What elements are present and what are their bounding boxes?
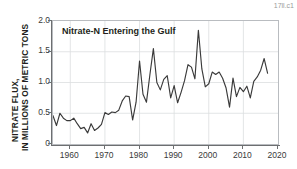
chart-title: Nitrate-N Entering the Gulf (62, 26, 176, 36)
data-series-line (53, 30, 268, 133)
y-tick-mark (48, 82, 52, 83)
figure-id-label: 17ll.c1 (274, 2, 294, 9)
data-line-chart (53, 21, 278, 144)
y-tick-label-2.0: 2.0 (30, 16, 50, 25)
y-axis-title-line-1: NITRATE FLUX, (10, 78, 20, 142)
x-tick-mark (208, 146, 209, 149)
x-tick-mark (104, 146, 105, 149)
y-tick-label-0.5: 0.5 (30, 108, 50, 117)
y-tick-mark (48, 20, 52, 21)
x-tick-mark (277, 146, 278, 149)
x-tick-label-1960: 1960 (60, 151, 79, 160)
x-tick-mark (242, 146, 243, 149)
x-axis-tick-labels: 1960197019801990200020102020 (0, 148, 297, 162)
y-axis-title: NITRATE FLUX, IN MILLIONS OF METRIC TONS (0, 0, 22, 169)
y-tick-label-1.5: 1.5 (30, 46, 50, 55)
x-axis-line (51, 145, 280, 146)
x-tick-mark (173, 146, 174, 149)
x-tick-label-1990: 1990 (164, 151, 183, 160)
x-tick-label-2010: 2010 (233, 151, 252, 160)
x-tick-label-2020: 2020 (268, 151, 287, 160)
figure-container: 17ll.c1 NITRATE FLUX, IN MILLIONS OF MET… (0, 0, 297, 169)
plot-area: Nitrate-N Entering the Gulf (52, 20, 279, 145)
y-tick-mark (48, 143, 52, 144)
y-tick-label-0: 0 (30, 139, 50, 148)
y-tick-mark (48, 51, 52, 52)
x-tick-mark (139, 146, 140, 149)
gridlines (53, 21, 278, 144)
x-tick-label-1970: 1970 (94, 151, 113, 160)
x-tick-label-1980: 1980 (129, 151, 148, 160)
x-tick-label-2000: 2000 (198, 151, 217, 160)
y-tick-label-1.0: 1.0 (30, 77, 50, 86)
y-axis-tick-labels: 00.51.01.52.0 (28, 0, 50, 169)
x-tick-mark (69, 146, 70, 149)
y-tick-mark (48, 112, 52, 113)
